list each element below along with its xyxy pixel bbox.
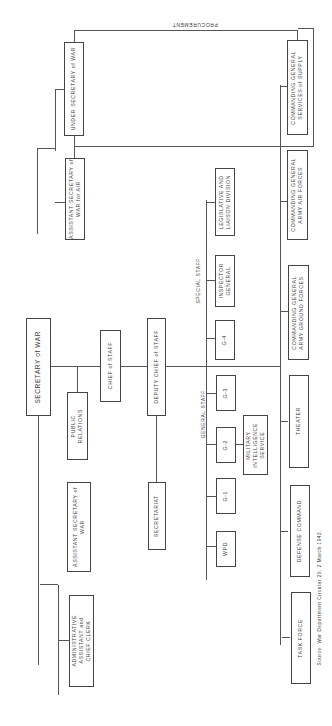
sec-far-left-top [37, 148, 55, 149]
box-task-force: TASK FORCE [291, 592, 311, 684]
deputy-chief-link [120, 366, 150, 367]
box-chief-of-staff: CHIEF of STAFF [100, 330, 121, 402]
command-spine [280, 85, 281, 645]
box-wpd: WPD [216, 531, 236, 567]
box-deputy-chief: DEPUTY CHIEF of STAFF [147, 318, 166, 416]
box-asst-sec-war: ASSISTANT SECRETARY of WAR [67, 482, 91, 572]
special-staff-label: SPECIAL STAFF [195, 258, 201, 304]
theater-link [280, 421, 288, 422]
pr-stem [77, 366, 78, 394]
deputy-down [156, 415, 157, 485]
box-admin-assistant: ADMINISTRATIVE ASSISTANT and CHIEF CLERK [69, 595, 94, 687]
procurement-label: PROCUREMENT [172, 22, 218, 28]
asst-air-link [55, 202, 65, 203]
sos-outer-line [313, 28, 314, 146]
box-public-relations: PUBLIC RELATIONS [67, 392, 88, 460]
box-cg-army-ground-forces: COMMANDING GENERAL ARMY GROUND FORCES [288, 265, 309, 360]
sec-left-line [55, 89, 56, 151]
box-cg-army-air-forces: COMMANDING GENERAL ARMY AIR FORCES [287, 150, 308, 240]
under-sec-stem [74, 134, 75, 160]
secwar-down [38, 415, 39, 665]
box-defense-command: DEFENSE COMMAND [290, 485, 310, 577]
g1-link [206, 496, 216, 497]
source-note: Source: War Department Circular 29, 2 Ma… [317, 530, 322, 665]
box-g3: G-3 [216, 375, 236, 411]
box-g1: G-1 [216, 478, 236, 514]
general-staff-label: GENERAL STAFF [200, 390, 206, 438]
box-cg-services-of-supply: COMMANDING GENERAL SERVICES of SUPPLY [287, 40, 308, 135]
box-g2: G-2 [216, 427, 236, 463]
g2-link [206, 444, 216, 445]
cg-agf-link [280, 311, 288, 312]
box-under-secretary-of-war: UNDER SECRETARY of WAR [64, 42, 84, 136]
box-inspector-general: INSPECTOR GENERAL [215, 255, 235, 307]
task-link [282, 637, 290, 638]
sec-far-left [37, 148, 38, 234]
chief-line [51, 366, 281, 367]
box-legislative-liaison: LEGISLATIVE AND LIAISON DIVISION [215, 168, 235, 236]
box-military-intelligence: MILITARY INTELLIGENCE SERVICE [243, 415, 268, 475]
procurement-line-top [74, 30, 298, 31]
box-secretary-of-war: SECRETARY of WAR [26, 318, 51, 416]
g3-link [206, 393, 216, 394]
staff-spine [206, 200, 207, 580]
box-asst-sec-air: ASSISTANT SECRETARY of WAR for AIR [65, 158, 85, 240]
box-g4: G-4 [215, 320, 235, 360]
asst-war-link [40, 584, 58, 585]
box-theater: THEATER [289, 375, 309, 468]
defense-link [280, 531, 288, 532]
wpd-link [206, 546, 216, 547]
horizontal-main-line [74, 146, 314, 147]
sos-outer-top [298, 28, 314, 29]
box-secretariat: SECRETARIAT [148, 482, 166, 550]
